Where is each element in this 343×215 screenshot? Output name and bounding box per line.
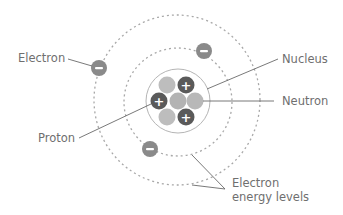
energy-levels-label-line1: Electron — [232, 176, 279, 190]
plus-icon: + — [154, 94, 165, 109]
energy-levels-label-line2: energy levels — [232, 190, 309, 204]
minus-icon — [95, 67, 103, 69]
electron — [91, 60, 107, 76]
proton-label: Proton — [38, 131, 75, 145]
nucleus-leader — [207, 59, 278, 89]
neutron — [170, 93, 187, 110]
electron-label: Electron — [18, 51, 65, 65]
neutron — [159, 109, 176, 126]
proton: + — [151, 93, 168, 110]
proton: + — [178, 77, 195, 94]
atom-diagram: + + + Electron N — [0, 0, 343, 215]
minus-icon — [200, 50, 208, 52]
neutron-label: Neutron — [282, 94, 328, 108]
minus-icon — [146, 148, 154, 150]
plus-icon: + — [181, 110, 192, 125]
electron — [142, 141, 158, 157]
neutron — [187, 93, 204, 110]
electron — [196, 43, 212, 59]
proton-leader — [79, 104, 151, 138]
proton: + — [178, 109, 195, 126]
energy-levels-leader-outer — [192, 185, 225, 189]
nucleus-label: Nucleus — [282, 52, 328, 66]
electron-leader — [68, 59, 92, 66]
plus-icon: + — [181, 78, 192, 93]
neutron — [159, 77, 176, 94]
